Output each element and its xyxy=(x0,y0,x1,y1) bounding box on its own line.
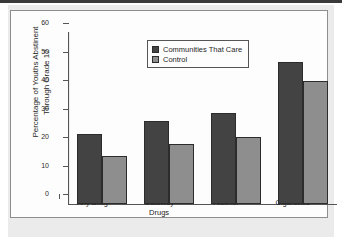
chart-figure-frame: Percentage of Youths AbstinentThrough Gr… xyxy=(10,10,328,218)
legend-swatch-icon-communities-that-care xyxy=(152,46,159,53)
legend-label-control: Control xyxy=(163,55,187,64)
bar-control-gateway-drugs xyxy=(169,144,194,204)
legend-item-control: Control xyxy=(152,54,242,64)
bar-control-cigarettes xyxy=(303,81,328,204)
legend-label-communities-that-care: Communities That Care xyxy=(163,45,242,54)
bar-communities-that-care-any-drug xyxy=(77,134,102,204)
legend-item-communities-that-care: Communities That Care xyxy=(152,44,242,54)
bar-communities-that-care-gateway-drugs xyxy=(144,121,169,204)
bar-communities-that-care-alcohol xyxy=(211,113,236,204)
y-tick-label: 60 xyxy=(21,19,49,27)
bar-communities-that-care-cigarettes xyxy=(278,62,303,205)
bar-control-any-drug xyxy=(102,156,127,204)
y-tick-label: 10 xyxy=(21,162,49,170)
y-tick-label: 20 xyxy=(21,133,49,141)
y-tick-label: 0 xyxy=(21,190,49,198)
figure-page: Percentage of Youths AbstinentThrough Gr… xyxy=(0,0,342,248)
y-tick-label: 30 xyxy=(21,105,49,113)
y-tick-label: 50 xyxy=(21,48,49,56)
y-tick-label: 40 xyxy=(21,76,49,84)
legend-swatch-icon-control xyxy=(152,56,159,63)
chart-legend: Communities That Care Control xyxy=(147,40,249,68)
y-tick-mark xyxy=(63,23,69,24)
bar-control-alcohol xyxy=(236,137,261,204)
